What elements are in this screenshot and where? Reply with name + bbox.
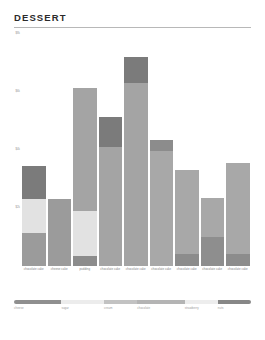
- bar-column[interactable]: [226, 34, 250, 266]
- legend-swatch-strawberry[interactable]: [185, 300, 218, 304]
- y-axis-tick: $8k: [16, 32, 20, 35]
- bar-segment-cheese[interactable]: [22, 166, 46, 199]
- bar-column[interactable]: [22, 34, 46, 266]
- y-axis-tick: $4k: [16, 148, 20, 151]
- legend-label-row: cheesesugarcreamchocolatestrawberrynuts: [14, 306, 251, 310]
- bar-group: [22, 34, 254, 266]
- bar-segment-cheese[interactable]: [150, 140, 174, 152]
- bar-segment-cream[interactable]: [226, 163, 250, 254]
- x-axis-label: chocolate cake: [22, 268, 46, 272]
- legend-swatch-nuts[interactable]: [218, 300, 251, 304]
- plot-area: $8k$6k$4k$2k chocolate cakecheese cakepu…: [0, 34, 265, 274]
- x-axis-label: chocolate cake: [175, 268, 199, 272]
- bar-segment-cheese[interactable]: [124, 57, 148, 83]
- chart-header: DESSERT: [14, 12, 251, 28]
- legend-label-nuts: nuts: [218, 306, 251, 310]
- y-axis: $8k$6k$4k$2k: [0, 34, 22, 266]
- bar-segment-cream[interactable]: [124, 83, 148, 266]
- legend-label-cheese: cheese: [14, 306, 61, 310]
- bar-segment-nuts[interactable]: [175, 254, 199, 266]
- bar-column[interactable]: [175, 34, 199, 266]
- y-axis-tick: $6k: [16, 90, 20, 93]
- bars-region: [22, 34, 254, 266]
- x-axis-label: chocolate cake: [201, 268, 225, 272]
- legend-label-strawberry: strawberry: [185, 306, 218, 310]
- legend-label-cream: cream: [104, 306, 137, 310]
- bar-segment-cheese[interactable]: [99, 117, 123, 147]
- legend-label-chocolate: chocolate: [137, 306, 184, 310]
- legend-swatch-cheese[interactable]: [14, 300, 61, 304]
- legend: cheesesugarcreamchocolatestrawberrynuts: [14, 300, 251, 310]
- bar-segment-cream[interactable]: [22, 233, 46, 266]
- bar-segment-chocolate[interactable]: [201, 237, 225, 266]
- x-axis-label: cheese cake: [48, 268, 72, 272]
- legend-swatch-sugar[interactable]: [61, 300, 104, 304]
- bar-segment-cream[interactable]: [48, 199, 72, 266]
- legend-swatch-cream[interactable]: [104, 300, 137, 304]
- bar-column[interactable]: [48, 34, 72, 266]
- chart-page: DESSERT $8k$6k$4k$2k chocolate cakechees…: [0, 0, 265, 340]
- bar-segment-sugar[interactable]: [73, 211, 97, 256]
- title-divider: [14, 27, 251, 28]
- bar-column[interactable]: [99, 34, 123, 266]
- x-axis-label: chocolate cake: [99, 268, 123, 272]
- x-axis-label: chocolate cake: [150, 268, 174, 272]
- y-axis-tick: $2k: [16, 206, 20, 209]
- x-axis-label: pudding: [73, 268, 97, 272]
- legend-swatch-chocolate[interactable]: [137, 300, 184, 304]
- bar-segment-chocolate[interactable]: [73, 88, 97, 211]
- legend-label-sugar: sugar: [61, 306, 104, 310]
- x-axis-label: chocolate cake: [226, 268, 250, 272]
- legend-color-bar: [14, 300, 251, 304]
- bar-segment-cream[interactable]: [201, 198, 225, 237]
- bar-segment-cream[interactable]: [99, 147, 123, 266]
- bar-column[interactable]: [73, 34, 97, 266]
- bar-segment-cream[interactable]: [175, 170, 199, 254]
- bar-segment-nuts[interactable]: [73, 256, 97, 266]
- bar-segment-sugar[interactable]: [22, 199, 46, 232]
- bar-column[interactable]: [150, 34, 174, 266]
- x-axis-label: chocolate cake: [124, 268, 148, 272]
- bar-segment-cream[interactable]: [150, 151, 174, 266]
- x-axis-labels: chocolate cakecheese cakepuddingchocolat…: [22, 268, 254, 272]
- bar-column[interactable]: [201, 34, 225, 266]
- page-title: DESSERT: [14, 12, 251, 24]
- bar-segment-nuts[interactable]: [226, 254, 250, 266]
- bar-column[interactable]: [124, 34, 148, 266]
